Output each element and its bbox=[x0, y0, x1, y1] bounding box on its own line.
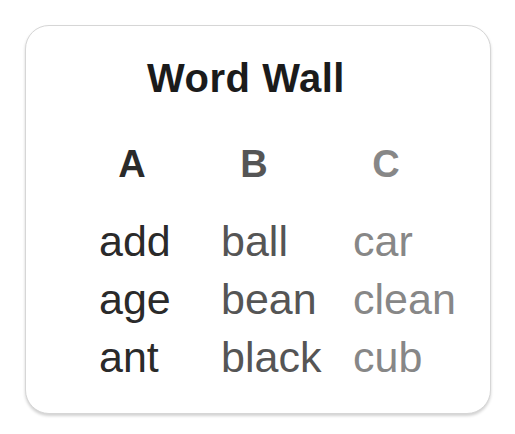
word-item: car bbox=[353, 212, 456, 270]
column-a: A add age ant bbox=[99, 142, 171, 386]
column-b-header: B bbox=[221, 142, 287, 186]
column-a-words: add age ant bbox=[99, 212, 171, 386]
column-c: C car clean cub bbox=[353, 142, 456, 386]
word-item: ant bbox=[99, 328, 171, 386]
column-b: B ball bean black bbox=[221, 142, 321, 386]
word-item: age bbox=[99, 270, 171, 328]
word-item: cub bbox=[353, 328, 456, 386]
column-a-header: A bbox=[99, 142, 165, 186]
word-item: clean bbox=[353, 270, 456, 328]
column-c-words: car clean cub bbox=[353, 212, 456, 386]
column-c-header: C bbox=[353, 142, 419, 186]
card-title: Word Wall bbox=[26, 56, 466, 101]
word-item: bean bbox=[221, 270, 321, 328]
page-background: Word Wall A add age ant B ball bean blac… bbox=[0, 0, 515, 434]
word-item: ball bbox=[221, 212, 321, 270]
word-item: add bbox=[99, 212, 171, 270]
column-b-words: ball bean black bbox=[221, 212, 321, 386]
word-item: black bbox=[221, 328, 321, 386]
word-wall-card: Word Wall A add age ant B ball bean blac… bbox=[25, 25, 491, 414]
